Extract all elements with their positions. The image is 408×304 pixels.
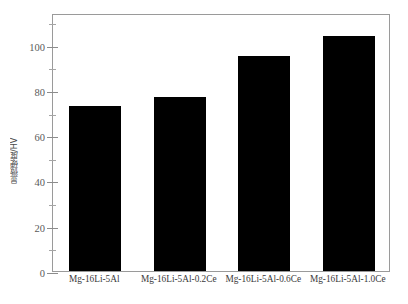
y-tick-major-inner <box>53 273 58 274</box>
y-tick-minor-inner <box>53 250 56 251</box>
x-axis-category-label: Mg-16Li-5Al-0.6Ce <box>225 274 301 284</box>
bar <box>69 106 121 271</box>
x-axis-category-label: Mg-16Li-5Al-1.0Ce <box>310 274 386 284</box>
plot-area: 020406080100 <box>52 14 390 272</box>
y-tick-minor-inner <box>53 69 56 70</box>
y-tick-major-inner <box>53 47 58 48</box>
y-tick-major-inner <box>53 137 58 138</box>
y-axis-label: 显微硬度/HV <box>10 118 24 204</box>
y-tick-minor-inner <box>53 205 56 206</box>
y-tick-label: 20 <box>35 222 46 233</box>
y-tick-label: 0 <box>40 268 45 279</box>
y-tick-minor-inner <box>53 160 56 161</box>
y-tick-label: 60 <box>35 132 46 143</box>
bar <box>238 56 290 271</box>
y-tick-major-inner <box>53 92 58 93</box>
y-tick-minor-inner <box>53 24 56 25</box>
y-tick-label: 40 <box>35 177 46 188</box>
bar <box>154 97 206 271</box>
y-tick-major-inner <box>53 228 58 229</box>
y-tick-label: 100 <box>29 41 45 52</box>
chart-figure: 显微硬度/HV 020406080100 Mg-16Li-5AlMg-16Li-… <box>0 0 408 304</box>
bar <box>323 36 375 271</box>
y-tick-label: 80 <box>35 86 46 97</box>
y-tick-minor-inner <box>53 115 56 116</box>
y-tick-major-inner <box>53 182 58 183</box>
x-axis-category-label: Mg-16Li-5Al-0.2Ce <box>141 274 217 284</box>
x-axis-category-label: Mg-16Li-5Al <box>69 274 120 284</box>
